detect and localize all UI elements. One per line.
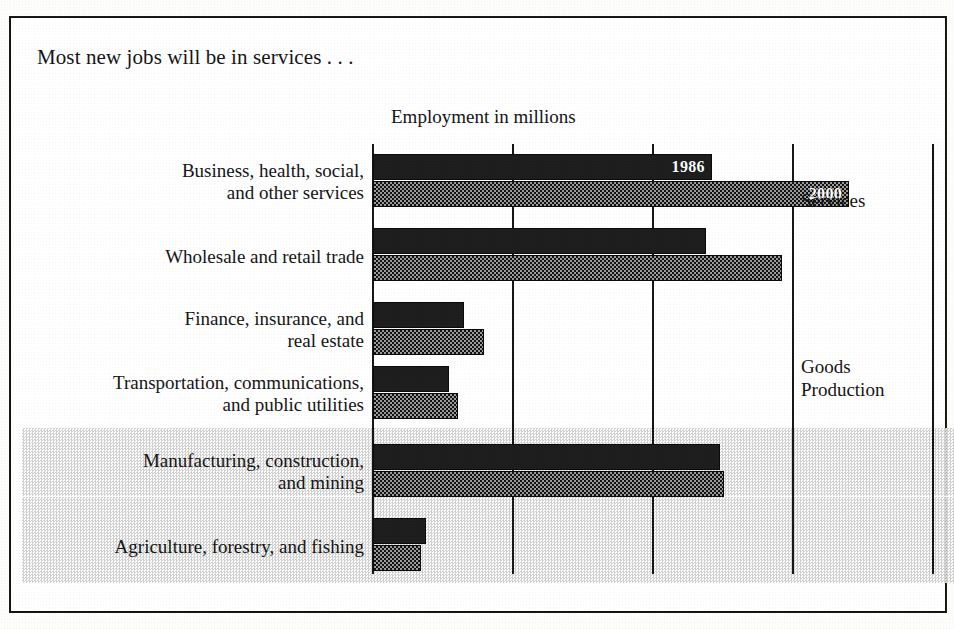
- category-label-5: Agriculture, forestry, and fishing: [19, 536, 364, 558]
- bar-series-label-1986: 1986: [672, 158, 705, 176]
- gridline-0: [372, 144, 374, 574]
- bar-1986-group-0: 1986: [373, 154, 712, 180]
- bar-2000-group-4: [373, 471, 724, 497]
- bar-2000-group-5: [373, 545, 421, 571]
- category-label-4: Manufacturing, construction, and mining: [19, 450, 364, 494]
- bar-2000-group-2: [373, 329, 484, 355]
- bar-1986-group-2: [373, 302, 464, 328]
- bar-2000-group-3: [373, 393, 458, 419]
- category-label-1: Wholesale and retail trade: [19, 246, 364, 268]
- group-label-services: Services: [801, 190, 865, 213]
- bar-1986-group-4: [373, 444, 720, 470]
- bar-1986-group-3: [373, 366, 449, 392]
- category-label-2: Finance, insurance, and real estate: [19, 308, 364, 352]
- bar-1986-group-1: [373, 228, 706, 254]
- bar-1986-group-5: [373, 518, 426, 544]
- chart-title: Most new jobs will be in services . . .: [37, 45, 354, 70]
- group-label-goods-production: Goods Production: [801, 356, 884, 402]
- category-label-0: Business, health, social, and other serv…: [19, 160, 364, 204]
- chart-frame: Most new jobs will be in services . . . …: [9, 16, 947, 613]
- chart-page: Most new jobs will be in services . . . …: [0, 0, 954, 629]
- category-label-3: Transportation, communications, and publ…: [19, 372, 364, 416]
- gridline-40: [932, 144, 934, 574]
- category-labels: Business, health, social, and other serv…: [19, 144, 364, 574]
- gridline-30: [792, 144, 794, 574]
- bar-2000-group-0: 2000: [373, 181, 849, 207]
- x-axis-title: Employment in millions: [391, 106, 576, 128]
- gridline-20: [652, 144, 654, 574]
- gridline-10: [512, 144, 514, 574]
- bar-2000-group-1: [373, 255, 782, 281]
